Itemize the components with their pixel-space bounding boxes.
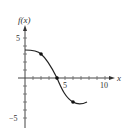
data-point (55, 76, 59, 80)
y-axis-label: f(x) (18, 15, 31, 25)
chart: f(x) x 5 −5 5 10 (0, 0, 126, 137)
y-tick-label-neg5: −5 (9, 114, 18, 123)
x-axis-label: x (116, 73, 121, 83)
x-axis-arrow-icon (109, 76, 115, 80)
data-point (71, 100, 75, 104)
x-tick-label-5: 5 (63, 81, 67, 90)
x-tick-label-10: 10 (100, 81, 108, 90)
y-tick-label-5: 5 (16, 34, 20, 43)
y-axis-arrow-icon (23, 25, 27, 31)
data-point (39, 52, 43, 56)
